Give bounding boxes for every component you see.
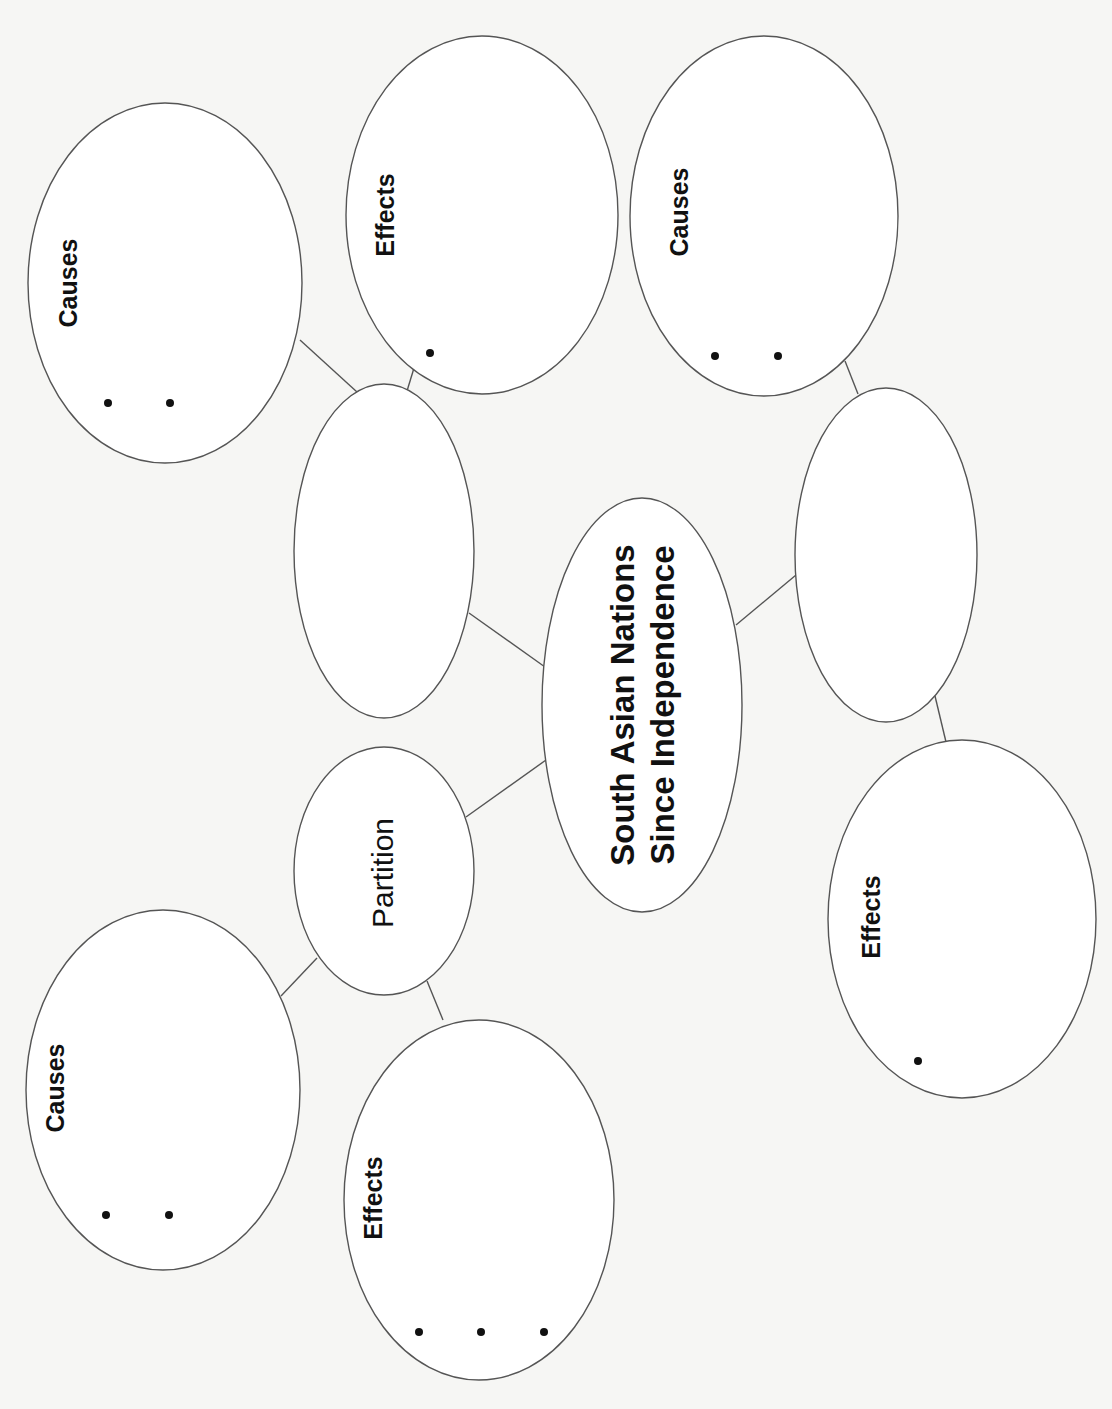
bullet-point [165,1211,173,1219]
node-branch-right [795,388,977,722]
label-partition: Partition [366,818,399,928]
connector-causes-tl-to-branch-left-upper [300,340,357,392]
node-partition: Partition [294,747,474,995]
node-center: South Asian Nations Since Independence [542,498,742,912]
node-causes-top-right: Causes [630,36,898,396]
connector-center-to-branch-right [736,575,796,625]
connector-causes-tr-to-branch-right [845,361,858,394]
bullet-point [166,399,174,407]
bullet-point [711,352,719,360]
label-causes-top-right: Causes [665,168,693,257]
connector-partition-to-center [466,760,546,817]
node-causes-top-left: Causes [28,103,302,463]
node-effects-bottom-right: Effects [828,740,1096,1098]
label-causes-top-left: Causes [54,239,82,328]
bullet-point [102,1211,110,1219]
bullet-point [477,1328,485,1336]
label-causes-bottom-left: Causes [41,1044,69,1133]
label-effects-top: Effects [371,173,399,256]
bullet-point [426,349,434,357]
connector-branch-left-upper-to-center [469,613,545,667]
bullet-point [774,352,782,360]
bullet-point [104,399,112,407]
ellipse-branch-left-upper-blank [294,384,474,718]
center-title-line2: Since Independence [644,545,681,864]
connector-partition-to-effects-bottom [427,981,443,1020]
node-effects-top: Effects [346,36,618,394]
ellipse-branch-right-blank [795,388,977,722]
connector-effects-top-to-branch-left-upper [407,368,414,391]
label-effects-bottom-right: Effects [857,875,885,958]
ellipse-center [542,498,742,912]
label-effects-bottom: Effects [359,1156,387,1239]
bullet-point [540,1328,548,1336]
bullet-point [914,1057,922,1065]
center-title-line1: South Asian Nations [604,544,641,865]
node-causes-bottom-left: Causes [26,910,300,1270]
connector-partition-to-causes-bl [281,958,317,996]
node-effects-bottom: Effects [344,1020,614,1380]
concept-web-diagram: Causes Effects Causes South Asian Nation… [0,0,1112,1409]
connector-branch-right-to-effects-br [935,696,946,742]
node-branch-left-upper [294,384,474,718]
bullet-point [415,1328,423,1336]
